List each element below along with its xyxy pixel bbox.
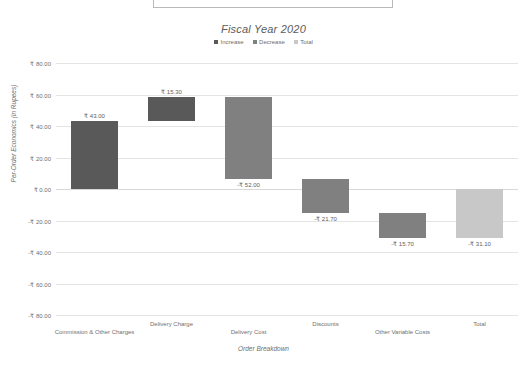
legend-swatch-decrease	[253, 40, 257, 44]
bar-data-label: -₹ 31.10	[440, 240, 520, 247]
bar-data-label: -₹ 21.70	[286, 215, 366, 222]
x-axis-tick-label: Other Variable Costs	[348, 329, 458, 335]
legend-label-total: Total	[300, 39, 313, 45]
legend-item-total[interactable]: Total	[294, 39, 313, 45]
y-axis-tick-label: ₹ 0.00	[34, 186, 51, 193]
gridline	[56, 284, 518, 285]
y-axis-tick-label: -₹ 20.00	[28, 217, 51, 224]
x-axis-title: Order Breakdown	[0, 345, 527, 352]
chart-title: Fiscal Year 2020	[0, 23, 527, 35]
x-axis-tick-label: Commission & Other Charges	[40, 329, 150, 335]
x-axis-tick-label: Discounts	[271, 321, 381, 327]
legend-swatch-increase	[214, 40, 218, 44]
y-axis-tick-label: ₹ 80.00	[30, 60, 51, 67]
waterfall-chart: Fiscal Year 2020 Increase Decrease Total…	[0, 0, 527, 374]
gridline	[56, 315, 518, 316]
bar-total[interactable]	[456, 189, 504, 238]
y-axis-tick-label: ₹ 40.00	[30, 123, 51, 130]
x-axis-tick-label: Delivery Cost	[194, 329, 304, 335]
bar-decrease[interactable]	[225, 97, 273, 179]
y-axis-tick-label: -₹ 40.00	[28, 249, 51, 256]
gridline	[56, 63, 518, 64]
y-axis-tick-label: ₹ 20.00	[30, 154, 51, 161]
gridline	[56, 252, 518, 253]
bar-decrease[interactable]	[379, 213, 427, 238]
gridline	[56, 158, 518, 159]
bar-increase[interactable]	[71, 121, 119, 189]
legend-swatch-total	[294, 40, 298, 44]
y-axis-title: Per-Order Economics (in Rupees)	[10, 74, 17, 194]
x-axis-tick-label: Total	[425, 321, 527, 327]
legend-item-decrease[interactable]: Decrease	[253, 39, 285, 45]
gridline	[56, 95, 518, 96]
bar-data-label: -₹ 52.00	[209, 181, 289, 188]
y-axis-tick-label: -₹ 60.00	[28, 280, 51, 287]
bar-data-label: -₹ 15.70	[363, 240, 443, 247]
bar-increase[interactable]	[148, 97, 196, 121]
legend-label-increase: Increase	[221, 39, 244, 45]
bar-decrease[interactable]	[302, 179, 350, 213]
legend-item-increase[interactable]: Increase	[214, 39, 244, 45]
gridline	[56, 126, 518, 127]
x-axis-tick-label: Delivery Charge	[117, 321, 227, 327]
y-axis-tick-label: -₹ 80.00	[28, 312, 51, 319]
bar-data-label: ₹ 43.00	[55, 112, 135, 119]
plot-area: ₹ 80.00₹ 60.00₹ 40.00₹ 20.00₹ 0.00-₹ 20.…	[56, 63, 518, 315]
y-axis-tick-label: ₹ 60.00	[30, 91, 51, 98]
bar-data-label: ₹ 15.30	[132, 88, 212, 95]
legend-label-decrease: Decrease	[259, 39, 285, 45]
gridline	[56, 189, 518, 190]
chart-legend: Increase Decrease Total	[0, 39, 527, 45]
